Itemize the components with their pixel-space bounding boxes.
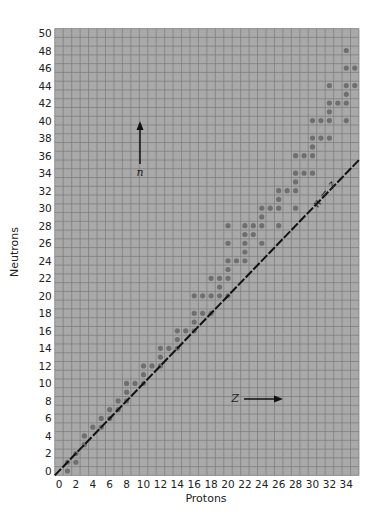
x-tick-label: 34 [340, 478, 354, 490]
nuclide-dot [293, 206, 298, 211]
nuclide-dot [183, 328, 188, 333]
x-tick-label: 16 [188, 478, 202, 490]
nuclide-dot [65, 468, 70, 473]
nuclide-dot [234, 258, 239, 263]
nuclide-dot [124, 390, 129, 395]
nuclide-dot [259, 214, 264, 219]
nuclide-dot [335, 100, 340, 105]
y-tick-label: 4 [45, 430, 52, 442]
nuclide-dot [217, 284, 222, 289]
y-tick-label: 14 [38, 342, 52, 354]
x-tick-label: 14 [171, 478, 185, 490]
y-tick-label: 2 [45, 447, 52, 459]
nuclide-dot [344, 48, 349, 53]
nuclide-dot [225, 267, 230, 272]
y-tick-label: 34 [38, 167, 52, 179]
nuclide-dot [259, 206, 264, 211]
y-tick-label: 26 [38, 237, 52, 249]
y-tick-label: 48 [38, 45, 51, 57]
nuclide-dot [327, 118, 332, 123]
nuclide-dot [192, 311, 197, 316]
y-tick-label: 44 [38, 80, 52, 92]
nuclide-dot [318, 118, 323, 123]
nuclide-dot [344, 92, 349, 97]
nuclide-dot [293, 188, 298, 193]
nuclide-dot [327, 100, 332, 105]
nuclide-dot [344, 100, 349, 105]
nuclide-dot [149, 363, 154, 368]
y-axis-ticks: 0246810121416182022242628303234363840424… [38, 27, 52, 477]
y-tick-label: 40 [38, 115, 51, 127]
nuclide-dot [242, 232, 247, 237]
nuclide-dot [327, 109, 332, 114]
nuclide-dot [259, 223, 264, 228]
nuclide-dot [251, 223, 256, 228]
nuclide-dot [175, 328, 180, 333]
nuclide-dot [107, 407, 112, 412]
y-tick-label: 24 [38, 255, 52, 267]
x-axis-title: Protons [185, 492, 226, 505]
x-tick-label: 30 [306, 478, 319, 490]
nuclide-dot [268, 206, 273, 211]
x-tick-label: 18 [204, 478, 217, 490]
x-tick-label: 0 [56, 478, 63, 490]
nuclide-dot [352, 65, 357, 70]
nuclide-dot [242, 223, 247, 228]
nuclide-dot [141, 372, 146, 377]
nuclide-dot [301, 171, 306, 176]
nuclide-dot [293, 153, 298, 158]
y-tick-label: 46 [38, 62, 52, 74]
x-tick-label: 12 [154, 478, 167, 490]
nuclide-dot [192, 319, 197, 324]
y-tick-label: 6 [45, 412, 52, 424]
nuclide-dot [209, 276, 214, 281]
x-tick-label: 2 [73, 478, 80, 490]
x-tick-label: 22 [238, 478, 251, 490]
nuclide-dot [327, 83, 332, 88]
x-tick-label: 20 [221, 478, 234, 490]
nuclide-chart: 0246810121416182022242628303234 02468101… [0, 0, 384, 527]
y-tick-label: 28 [38, 220, 51, 232]
nuclide-dot [225, 258, 230, 263]
y-tick-label: 22 [38, 272, 51, 284]
nuclide-dot [158, 346, 163, 351]
nuclide-dot [158, 355, 163, 360]
neutron-arrow-label: n [136, 166, 143, 179]
y-tick-label: 12 [38, 360, 51, 372]
nuclide-dot [116, 398, 121, 403]
y-tick-label: 42 [38, 97, 51, 109]
y-tick-label: 38 [38, 132, 51, 144]
nuclide-dot [225, 223, 230, 228]
x-tick-label: 32 [323, 478, 336, 490]
y-tick-label: 30 [38, 202, 51, 214]
y-axis-title: Neutrons [8, 227, 21, 277]
nuclide-dot [175, 337, 180, 342]
nuclide-dot [251, 232, 256, 237]
nuclide-dot [310, 144, 315, 149]
nuclide-dot [352, 83, 357, 88]
nuclide-dot [242, 258, 247, 263]
nuclide-dot [293, 179, 298, 184]
nuclide-dot [141, 363, 146, 368]
x-tick-label: 10 [137, 478, 150, 490]
nuclide-dot [217, 293, 222, 298]
x-tick-label: 6 [106, 478, 113, 490]
nuclide-dot [301, 153, 306, 158]
nuclide-dot [276, 223, 281, 228]
y-tick-label: 36 [38, 150, 52, 162]
x-tick-label: 8 [123, 478, 130, 490]
nuclide-dot [217, 276, 222, 281]
nuclide-dot [310, 118, 315, 123]
nuclide-dot [276, 188, 281, 193]
nuclide-dot [82, 433, 87, 438]
nuclide-dot [225, 241, 230, 246]
nuclide-dot [192, 293, 197, 298]
x-axis-ticks: 0246810121416182022242628303234 [56, 478, 354, 490]
nuclide-dot [259, 241, 264, 246]
nuclide-dot [209, 293, 214, 298]
nuclide-dot [310, 136, 315, 141]
nuclide-dot [318, 136, 323, 141]
nuclide-dot [99, 416, 104, 421]
proton-arrow-label: Z [230, 392, 239, 405]
y-tick-label: 16 [38, 325, 52, 337]
